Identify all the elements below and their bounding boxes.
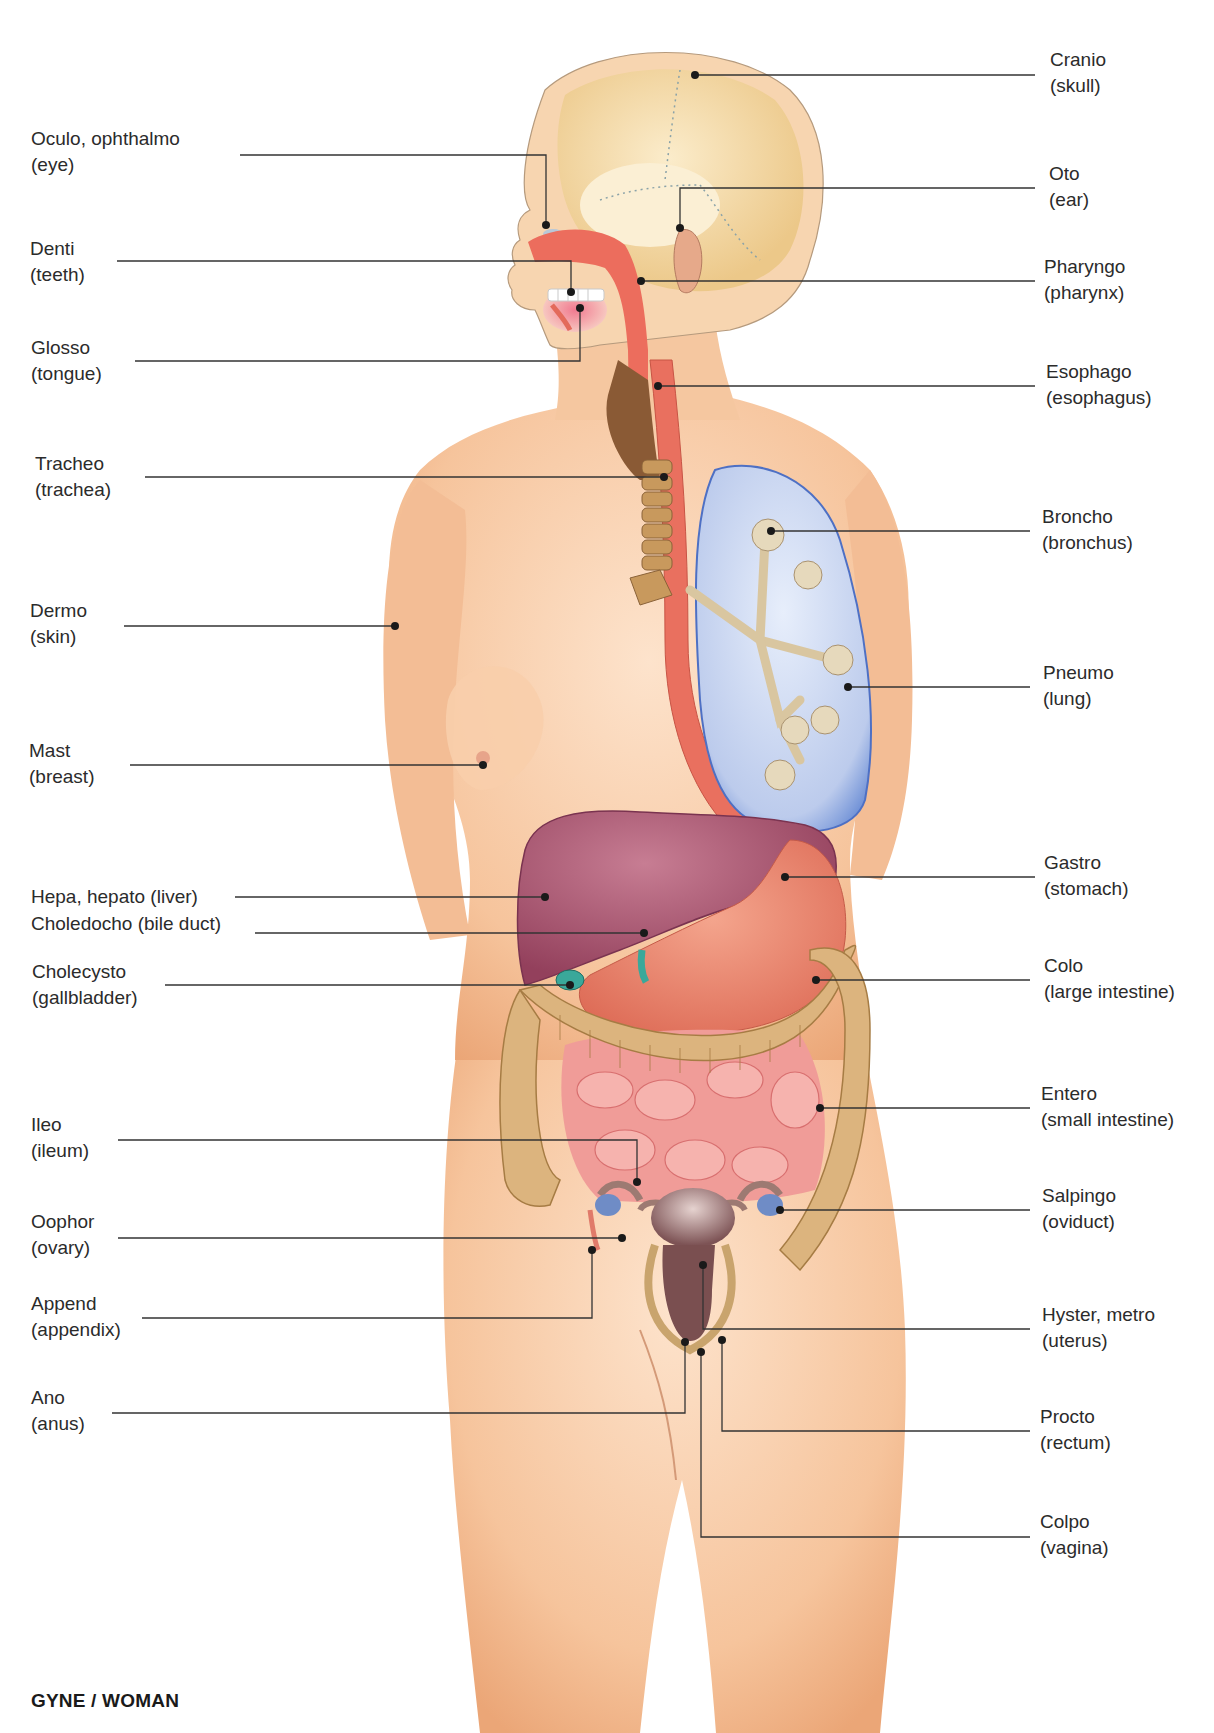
- anatomy-diagram: Oculo, ophthalmo (eye) Denti (teeth) Glo…: [0, 0, 1214, 1733]
- label-meaning: (trachea): [35, 477, 111, 503]
- label-term: Hepa, hepato (liver): [31, 884, 198, 910]
- label-meaning: (teeth): [30, 262, 85, 288]
- label-meaning: (skull): [1050, 73, 1106, 99]
- label-bile-duct: Choledocho (bile duct): [31, 911, 221, 937]
- label-meaning: (ovary): [31, 1235, 94, 1261]
- label-appendix: Append (appendix): [31, 1291, 121, 1343]
- label-meaning: (skin): [30, 624, 87, 650]
- label-term: Salpingo: [1042, 1183, 1116, 1209]
- label-lung: Pneumo (lung): [1043, 660, 1114, 712]
- label-term: Procto: [1040, 1404, 1111, 1430]
- label-meaning: (anus): [31, 1411, 85, 1437]
- label-eye: Oculo, ophthalmo (eye): [31, 126, 180, 178]
- label-oviduct: Salpingo (oviduct): [1042, 1183, 1116, 1235]
- label-term: Choledocho (bile duct): [31, 911, 221, 937]
- label-meaning: (stomach): [1044, 876, 1128, 902]
- label-meaning: (ear): [1049, 187, 1089, 213]
- label-bronchus: Broncho (bronchus): [1042, 504, 1133, 556]
- label-term: Dermo: [30, 598, 87, 624]
- label-anus: Ano (anus): [31, 1385, 85, 1437]
- label-term: Ano: [31, 1385, 85, 1411]
- label-meaning: (oviduct): [1042, 1209, 1116, 1235]
- label-term: Colpo: [1040, 1509, 1109, 1535]
- label-vagina: Colpo (vagina): [1040, 1509, 1109, 1561]
- label-term: Hyster, metro: [1042, 1302, 1155, 1328]
- label-term: Oto: [1049, 161, 1089, 187]
- label-meaning: (tongue): [31, 361, 102, 387]
- diagram-title: GYNE / WOMAN: [31, 1690, 179, 1712]
- label-term: Denti: [30, 236, 85, 262]
- label-skull: Cranio (skull): [1050, 47, 1106, 99]
- label-uterus: Hyster, metro (uterus): [1042, 1302, 1155, 1354]
- label-gallbladder: Cholecysto (gallbladder): [32, 959, 138, 1011]
- label-term: Ileo: [31, 1112, 89, 1138]
- label-meaning: (vagina): [1040, 1535, 1109, 1561]
- label-esophagus: Esophago (esophagus): [1046, 359, 1152, 411]
- label-meaning: (breast): [29, 764, 94, 790]
- label-term: Pharyngo: [1044, 254, 1125, 280]
- label-term: Oculo, ophthalmo: [31, 126, 180, 152]
- label-term: Tracheo: [35, 451, 111, 477]
- label-meaning: (ileum): [31, 1138, 89, 1164]
- label-term: Mast: [29, 738, 94, 764]
- label-stomach: Gastro (stomach): [1044, 850, 1128, 902]
- label-term: Esophago: [1046, 359, 1152, 385]
- label-term: Broncho: [1042, 504, 1133, 530]
- label-meaning: (rectum): [1040, 1430, 1111, 1456]
- label-meaning: (pharynx): [1044, 280, 1125, 306]
- label-meaning: (appendix): [31, 1317, 121, 1343]
- label-large-intestine: Colo (large intestine): [1044, 953, 1175, 1005]
- label-ileum: Ileo (ileum): [31, 1112, 89, 1164]
- label-term: Cranio: [1050, 47, 1106, 73]
- label-skin: Dermo (skin): [30, 598, 87, 650]
- female-anatomy-illustration: [0, 0, 1214, 1733]
- label-meaning: (large intestine): [1044, 979, 1175, 1005]
- label-term: Gastro: [1044, 850, 1128, 876]
- label-meaning: (lung): [1043, 686, 1114, 712]
- label-ovary: Oophor (ovary): [31, 1209, 94, 1261]
- label-term: Glosso: [31, 335, 102, 361]
- label-meaning: (esophagus): [1046, 385, 1152, 411]
- label-meaning: (bronchus): [1042, 530, 1133, 556]
- label-breast: Mast (breast): [29, 738, 94, 790]
- label-trachea: Tracheo (trachea): [35, 451, 111, 503]
- label-meaning: (eye): [31, 152, 180, 178]
- label-term: Entero: [1041, 1081, 1174, 1107]
- label-term: Oophor: [31, 1209, 94, 1235]
- label-meaning: (small intestine): [1041, 1107, 1174, 1133]
- label-small-intestine: Entero (small intestine): [1041, 1081, 1174, 1133]
- label-meaning: (gallbladder): [32, 985, 138, 1011]
- label-liver: Hepa, hepato (liver): [31, 884, 198, 910]
- label-term: Pneumo: [1043, 660, 1114, 686]
- label-ear: Oto (ear): [1049, 161, 1089, 213]
- label-teeth: Denti (teeth): [30, 236, 85, 288]
- label-tongue: Glosso (tongue): [31, 335, 102, 387]
- label-meaning: (uterus): [1042, 1328, 1155, 1354]
- label-term: Append: [31, 1291, 121, 1317]
- label-pharynx: Pharyngo (pharynx): [1044, 254, 1125, 306]
- label-term: Colo: [1044, 953, 1175, 979]
- label-rectum: Procto (rectum): [1040, 1404, 1111, 1456]
- label-term: Cholecysto: [32, 959, 138, 985]
